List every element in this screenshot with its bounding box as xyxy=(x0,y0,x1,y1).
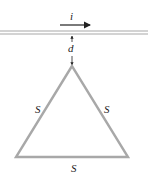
wire-triangle-diagram: i d S S S xyxy=(0,0,148,175)
side-label-left: S xyxy=(35,103,41,115)
side-label-right: S xyxy=(104,103,110,115)
diagram: i d S S S xyxy=(0,0,148,175)
wire xyxy=(0,31,148,34)
gap-label: d xyxy=(68,42,74,54)
triangle-loop xyxy=(16,66,128,157)
side-label-bottom: S xyxy=(71,162,77,174)
current-label: i xyxy=(70,10,73,22)
